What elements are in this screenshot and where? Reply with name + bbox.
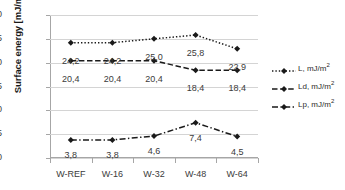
x-tick-mark [175,158,176,163]
y-axis-title: Surface energy [mJ/m²] [12,0,23,117]
data-point-marker [193,32,199,38]
data-label: 18,4 [176,83,216,93]
x-tick-mark [133,158,134,163]
data-point-marker [68,40,74,46]
y-tick-label: 0 [0,152,2,162]
legend-item[interactable]: Lp, mJ/m2 [272,94,345,112]
legend-label: L, mJ/m2 [298,62,330,73]
data-label: 3,8 [92,150,132,160]
chart-container: Surface energy [mJ/m²] 302520151050 W-RE… [0,0,345,190]
data-point-marker [234,134,240,140]
plot-area: 302520151050 W-REFW-16W-32W-48W-64 24,22… [50,15,258,158]
data-label: 24,2 [51,56,91,66]
data-point-marker [68,137,74,143]
data-label: 25,0 [134,52,174,62]
y-tick-label: 20 [0,57,2,67]
legend-item[interactable]: Ld, mJ/m2 [272,76,345,94]
data-label: 22,9 [217,62,257,72]
data-label: 7,4 [176,133,216,143]
legend-marker-icon [272,62,296,72]
legend-item[interactable]: L, mJ/m2 [272,58,345,76]
data-point-marker [109,137,115,143]
x-tick-mark [216,158,217,163]
data-point-marker [193,120,199,126]
data-label: 4,5 [217,147,257,157]
y-tick-label: 5 [0,128,2,138]
legend: L, mJ/m2Ld, mJ/m2Lp, mJ/m2 [272,58,345,112]
data-label: 20,4 [51,74,91,84]
data-label: 25,8 [176,48,216,58]
data-label: 18,4 [217,83,257,93]
data-label: 20,4 [134,74,174,84]
legend-marker-icon [272,98,296,108]
x-tick-label: W-64 [207,169,267,179]
data-label: 24,2 [92,56,132,66]
data-label: 20,4 [92,74,132,84]
data-point-marker [109,40,115,46]
data-point-marker [193,67,199,73]
data-point-marker [234,46,240,52]
legend-label: Ld, mJ/m2 [298,80,334,91]
legend-marker-icon [272,80,296,90]
data-label: 3,8 [51,150,91,160]
data-label: 4,6 [134,146,174,156]
y-tick-label: 25 [0,33,2,43]
data-point-marker [151,36,157,42]
legend-label: Lp, mJ/m2 [298,98,334,109]
data-point-marker [151,133,157,139]
y-tick-label: 15 [0,81,2,91]
y-tick-label: 30 [0,9,2,19]
x-tick-mark [258,158,259,163]
y-tick-label: 10 [0,104,2,114]
